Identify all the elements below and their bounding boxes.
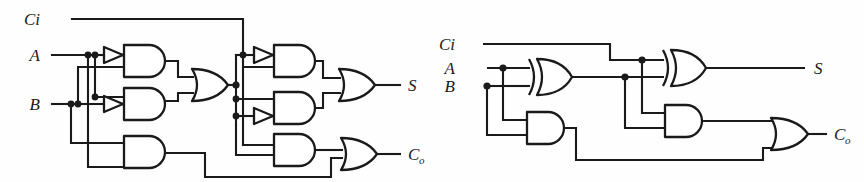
- or-gate-2: [339, 69, 375, 101]
- and-gate-1: [124, 45, 165, 77]
- and-gate-6: [274, 134, 315, 166]
- right-label-a: A: [444, 59, 456, 78]
- left-label-a: A: [29, 46, 41, 65]
- full-adder-figure: Ci A B S C o: [0, 0, 864, 182]
- right-and-gate-2: [665, 105, 702, 137]
- right-label-s: S: [814, 59, 823, 78]
- right-or-gate-1: [771, 118, 808, 150]
- left-label-b: B: [30, 95, 41, 114]
- right-and-gate-1: [527, 112, 564, 144]
- and-gate-5: [274, 92, 315, 124]
- left-label-s: S: [408, 76, 417, 95]
- and-gate-3: [124, 136, 165, 168]
- or-gate-3: [341, 138, 377, 170]
- right-label-b: B: [445, 77, 456, 96]
- xor-gate-2: [663, 50, 706, 86]
- right-label-co-subscript: o: [845, 134, 851, 146]
- or-gate-1: [192, 69, 228, 101]
- left-label-ci: Ci: [24, 10, 40, 29]
- left-label-co-subscript: o: [419, 154, 425, 166]
- right-label-ci: Ci: [439, 35, 455, 54]
- xor-gate-1: [529, 59, 572, 95]
- and-gate-4: [274, 45, 315, 77]
- and-gate-2: [124, 88, 165, 120]
- left-circuit-gate-level: Ci A B S C o: [0, 0, 864, 182]
